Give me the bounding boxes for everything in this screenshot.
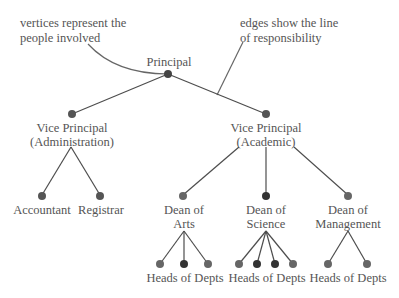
edge-vpadmin-registrar — [71, 147, 100, 195]
vertices — [38, 70, 371, 268]
vertex-head — [289, 260, 297, 268]
label-line: (Administration) — [30, 135, 114, 149]
vertex-vp-academic — [262, 110, 270, 118]
label-line: Vice Principal — [30, 121, 114, 135]
annotation-line: of responsibility — [240, 31, 338, 46]
annotation-line: edges show the line — [240, 16, 338, 31]
vertex-accountant — [38, 192, 46, 200]
vertex-head — [324, 260, 332, 268]
vertex-registrar — [96, 192, 104, 200]
annotation-line: people involved — [20, 31, 126, 46]
label-line: Dean of — [315, 203, 380, 217]
label-heads-science: Heads of Depts — [228, 271, 305, 285]
vertices-annotation: vertices represent the people involved — [20, 16, 126, 45]
label-line: Management — [315, 217, 380, 231]
label-accountant: Accountant — [13, 203, 71, 217]
label-dean-science: Dean of Science — [246, 203, 286, 231]
label-registrar: Registrar — [78, 203, 124, 217]
vertex-dean-management — [344, 192, 352, 200]
label-heads-management: Heads of Depts — [309, 271, 386, 285]
edge-arts-head — [184, 231, 208, 264]
label-principal: Principal — [146, 55, 191, 69]
edge-vpacad-management — [294, 147, 348, 195]
vertex-vp-admin — [68, 110, 76, 118]
edges-annotation: edges show the line of responsibility — [240, 16, 338, 45]
vertex-dean-arts — [179, 192, 187, 200]
label-dean-management: Dean of Management — [315, 203, 380, 231]
edge-arts-head — [160, 231, 184, 264]
edge-principal-vpadmin — [72, 74, 168, 114]
edge-vpacad-arts — [183, 147, 239, 195]
vertex-dean-science — [262, 192, 270, 200]
edge-vpadmin-accountant — [42, 147, 71, 195]
label-heads-arts: Heads of Depts — [146, 271, 223, 285]
label-vp-academic: Vice Principal (Academic) — [230, 121, 301, 149]
vertex-principal — [164, 70, 172, 78]
label-line: Vice Principal — [230, 121, 301, 135]
label-vp-admin: Vice Principal (Administration) — [30, 121, 114, 149]
edge-principal-vpacademic — [168, 74, 266, 114]
annotation-line: vertices represent the — [20, 16, 126, 31]
label-line: Science — [246, 217, 286, 231]
vertex-head — [253, 260, 261, 268]
edge-management-head — [328, 231, 348, 264]
label-dean-arts: Dean of Arts — [164, 203, 204, 231]
label-line: (Academic) — [230, 135, 301, 149]
vertex-head — [271, 260, 279, 268]
vertex-head — [156, 260, 164, 268]
label-line: Dean of — [164, 203, 204, 217]
vertex-head — [180, 260, 188, 268]
vertex-head — [204, 260, 212, 268]
label-line: Dean of — [246, 203, 286, 217]
label-line: Arts — [164, 217, 204, 231]
vertex-head — [363, 260, 371, 268]
vertex-head — [235, 260, 243, 268]
edge-management-head — [348, 231, 367, 264]
edges-pointer — [217, 42, 243, 95]
